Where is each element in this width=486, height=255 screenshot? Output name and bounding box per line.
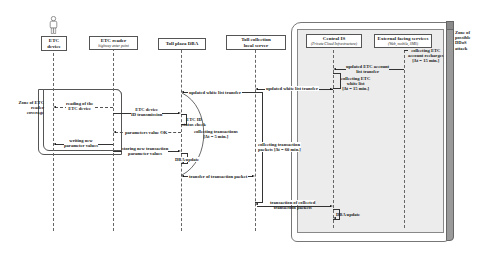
actor-label: External facing services — [375, 36, 431, 42]
actor-sublabel: (Web, mobile, SMS) — [375, 42, 431, 47]
msg-line: [Δt = 15 min.] — [408, 58, 444, 63]
self-loop-central — [333, 73, 341, 89]
actor-label: device — [42, 44, 66, 50]
msg-line: packets [Δt = 60 min.] — [258, 147, 301, 152]
actor-label: Toll plaza DBA — [159, 41, 205, 47]
arrowhead — [181, 175, 184, 177]
msg-line: list transfer — [346, 69, 389, 74]
msg-reading-device: reading of the ETC device — [66, 101, 93, 111]
coverage-label-line: coverage — [14, 110, 44, 115]
reader-coverage-label: Zone of ETC reader coverage — [14, 100, 44, 115]
actor-etc-reader: ETC reader highway enter point — [89, 36, 138, 50]
msg-line: status check — [182, 122, 206, 127]
msg-line: parameter values — [64, 143, 98, 148]
ddos-zone-bar — [446, 21, 454, 241]
msg-line: transaction packets — [270, 205, 315, 210]
lifeline-etc-reader — [113, 48, 114, 231]
arrowhead — [252, 175, 255, 177]
msg-updated-white-central: updated white list transfer — [265, 86, 319, 91]
msg-dba-update-plaza: DBA update — [175, 157, 199, 162]
msg-line: parameter values — [122, 151, 168, 156]
lifeline-external-services — [404, 45, 405, 228]
msg-transfer-packet: transfer of transaction packet — [188, 174, 248, 179]
msg-line: [Δt = 5 min.] — [194, 134, 238, 139]
arrowhead — [330, 205, 333, 207]
msg-line: ETC device — [66, 106, 93, 111]
actor-toll-collection-server: Toll collection local server — [226, 35, 286, 50]
ddos-label-line: attack — [455, 46, 471, 51]
arrowhead — [178, 150, 181, 152]
msg-storing-tx: storing new transaction parameter values — [122, 146, 168, 156]
msg-updated-account: updated ETC account list transfer — [346, 64, 389, 74]
msg-line: [Δt = 15 min.] — [341, 86, 370, 91]
msg-collecting-transactions: collecting transactions [Δt = 5 min.] — [194, 129, 238, 139]
msg-dba-update-central: DBA update — [336, 212, 360, 217]
actor-central-is: Central IS (Private Cloud Infrastructure… — [306, 34, 362, 48]
arrowhead — [53, 106, 56, 108]
actor-external-services: External facing services (Web, mobile, S… — [374, 34, 432, 48]
msg-writing-params: writing new parameter values — [64, 138, 98, 148]
arrowhead — [255, 88, 258, 90]
msg-device-id: ETC device ID transmission — [131, 107, 162, 117]
msg-line: ID transmission — [131, 112, 162, 117]
arrowhead — [113, 131, 116, 133]
actor-label: local server — [227, 43, 285, 49]
actor-toll-plaza-dba: Toll plaza DBA — [158, 38, 206, 50]
ddos-zone-bar-top — [446, 21, 454, 30]
arrowhead — [333, 68, 336, 70]
msg-collecting-whitelist: collecting ETC white list [Δt = 15 min.] — [341, 76, 370, 91]
arrowhead — [255, 203, 258, 205]
arrowhead — [330, 88, 333, 90]
actor-etc-device: ETC device — [41, 36, 67, 51]
msg-id-check: ETC ID status check — [182, 117, 206, 127]
lifeline-etc-device — [53, 48, 54, 231]
actor-sublabel: (Private Cloud Infrastructure) — [307, 42, 361, 47]
msg-transaction-collected: transaction of collected transaction pac… — [270, 200, 315, 210]
msg-collecting-packets: collecting transaction packets [Δt = 60 … — [258, 142, 301, 152]
arrowhead — [53, 143, 56, 145]
actor-sublabel: highway enter point — [90, 44, 137, 49]
msg-collecting-account: collecting ETC account recharges [Δt = 1… — [408, 48, 444, 63]
person-icon — [48, 16, 59, 34]
msg-param-ok: parameters value OK — [124, 130, 168, 135]
ddos-zone-label: Zone of possible DDoS attack — [455, 30, 471, 51]
